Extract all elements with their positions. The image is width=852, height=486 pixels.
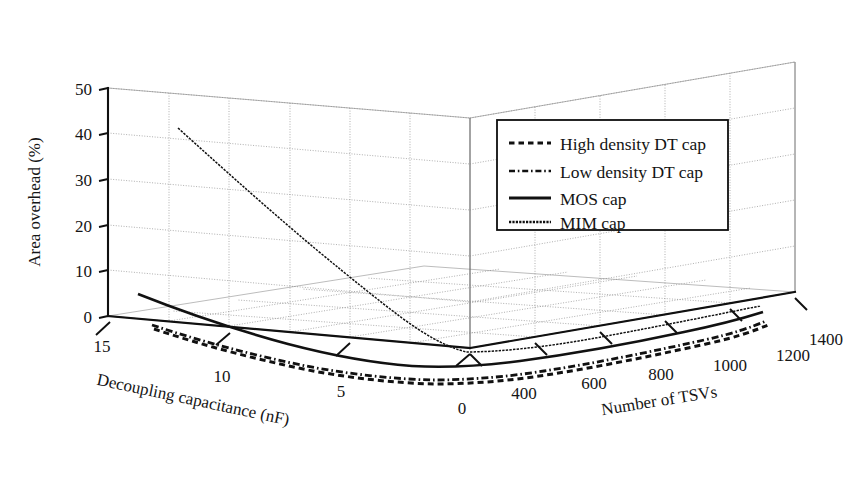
x-tick-label-1400: 1400 (809, 330, 843, 349)
legend-label-low-density-dt-cap: Low density DT cap (560, 162, 703, 182)
x-tick-label-800: 800 (648, 365, 674, 384)
z-axis-title: Area overhead (%) (25, 137, 44, 266)
z-tick-label-50: 50 (75, 80, 92, 99)
y-tick-label-0: 0 (458, 399, 467, 418)
z-tick-label-10: 10 (75, 262, 92, 281)
z-tick-label-30: 30 (75, 171, 92, 190)
y-axis: 15 10 5 0 Decoupling capacitance (nF) (94, 316, 471, 429)
curve-mos-cap (138, 294, 763, 367)
legend-label-mim-cap: MIM cap (560, 213, 626, 233)
z-axis: 50 40 30 20 10 0 Area overhead (%) (25, 80, 108, 327)
z-tick-label-0: 0 (84, 308, 93, 327)
legend[interactable]: High density DT cap Low density DT cap M… (497, 120, 728, 233)
back-left-wall (108, 88, 470, 348)
legend-label-mos-cap: MOS cap (560, 189, 627, 209)
y-tick-label-10: 10 (214, 367, 231, 386)
z-tick-label-40: 40 (75, 125, 92, 144)
x-axis-title: Number of TSVs (600, 382, 718, 419)
x-tick-label-1000: 1000 (713, 356, 747, 375)
y-tick-label-5: 5 (337, 382, 346, 401)
x-tick-label-400: 400 (511, 384, 537, 403)
z-tick-label-20: 20 (75, 217, 92, 236)
x-tick-label-600: 600 (581, 374, 607, 393)
chart-3d-area-overhead: 50 40 30 20 10 0 Area overhead (%) 15 10… (0, 0, 852, 486)
y-axis-title: Decoupling capacitance (nF) (95, 370, 291, 429)
figure-canvas: 50 40 30 20 10 0 Area overhead (%) 15 10… (0, 0, 852, 486)
y-tick-label-15: 15 (94, 337, 111, 356)
x-tick-label-1200: 1200 (776, 346, 810, 365)
legend-label-high-density-dt-cap: High density DT cap (560, 134, 706, 154)
floor-plane (108, 266, 795, 348)
